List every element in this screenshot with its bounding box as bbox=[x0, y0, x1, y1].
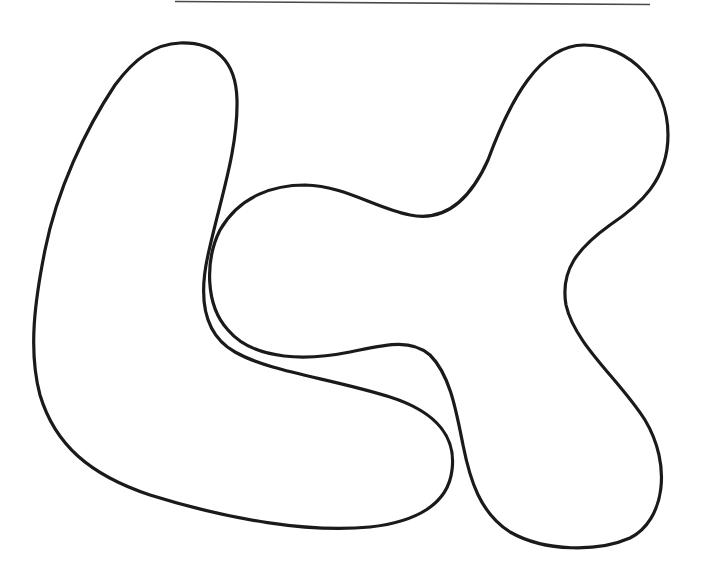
drawing-canvas bbox=[0, 0, 703, 574]
background bbox=[0, 0, 703, 574]
